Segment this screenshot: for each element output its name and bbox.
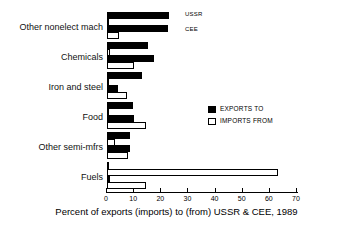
category-label-iron-and-steel: Iron and steel	[48, 82, 103, 92]
bar	[107, 32, 119, 39]
bar-chart: Other nonelect mach Chemicals Iron and s…	[0, 0, 353, 227]
legend-item-exports-to: EXPORTS TO	[208, 104, 273, 114]
x-axis-tick	[269, 188, 270, 193]
bar	[107, 55, 154, 62]
bar	[107, 169, 278, 176]
series-note-ussr: USSR	[185, 11, 202, 18]
x-axis-tick	[187, 188, 188, 193]
legend-item-imports-from: IMPORTS FROM	[208, 116, 273, 126]
bar	[107, 102, 133, 109]
category-label-other-nonelect-mach: Other nonelect mach	[19, 22, 103, 32]
x-axis-tick-label: 50	[238, 195, 246, 203]
bar	[107, 145, 130, 152]
plot-area	[107, 8, 297, 190]
x-axis-tick-label: 70	[292, 195, 300, 203]
bar	[107, 42, 148, 49]
series-note-cee: CEE	[185, 26, 198, 33]
x-axis-tick	[215, 188, 216, 193]
bar	[107, 25, 168, 32]
x-axis-tick-label: 0	[104, 195, 108, 203]
bar	[107, 162, 109, 169]
x-axis-tick-label: 40	[211, 195, 219, 203]
bar	[107, 12, 169, 19]
bar	[107, 132, 130, 139]
bar	[107, 175, 110, 182]
x-axis-tick	[160, 188, 161, 193]
bar	[107, 115, 134, 122]
category-label-fuels: Fuels	[81, 172, 103, 182]
bar	[107, 72, 142, 79]
legend-swatch-open-icon	[208, 118, 216, 125]
bar	[107, 92, 127, 99]
legend: EXPORTS TO IMPORTS FROM	[208, 104, 273, 128]
bar	[107, 85, 118, 92]
bar	[107, 122, 146, 129]
bar	[107, 62, 134, 69]
bar	[107, 182, 146, 189]
x-axis-tick	[296, 188, 297, 193]
category-label-other-semi-mfrs: Other semi-mfrs	[38, 142, 103, 152]
x-axis-tick-label: 10	[129, 195, 137, 203]
x-axis-tick-label: 60	[265, 195, 273, 203]
category-label-food: Food	[82, 112, 103, 122]
legend-label-imports-from: IMPORTS FROM	[220, 117, 273, 125]
x-axis-title: Percent of exports (imports) to (from) U…	[0, 206, 353, 218]
legend-swatch-filled-icon	[208, 106, 216, 113]
x-axis-tick-label: 20	[156, 195, 164, 203]
category-label-chemicals: Chemicals	[61, 52, 103, 62]
x-axis-tick-label: 30	[184, 195, 192, 203]
legend-label-exports-to: EXPORTS TO	[220, 105, 264, 113]
bar	[107, 152, 128, 159]
x-axis-tick	[242, 188, 243, 193]
